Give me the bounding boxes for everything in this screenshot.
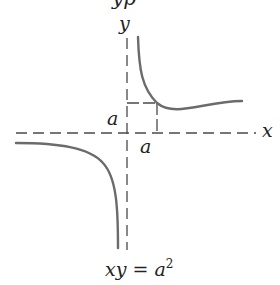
x-axis-label: x <box>262 121 273 140</box>
equation-exponent: 2 <box>166 257 174 271</box>
equation-lhs: xy = a <box>105 258 166 280</box>
y-tick-label-a: a <box>107 109 118 128</box>
y-axis-label: y <box>119 14 130 33</box>
x-tick-label-a: a <box>140 137 151 156</box>
hyperbola-diagram: yp y x a a xy = a2 <box>0 0 280 285</box>
hyperbola-branch-lower-left <box>16 143 118 248</box>
hyperbola-branch-upper-right <box>138 37 242 109</box>
equation-label: xy = a2 <box>105 258 173 279</box>
